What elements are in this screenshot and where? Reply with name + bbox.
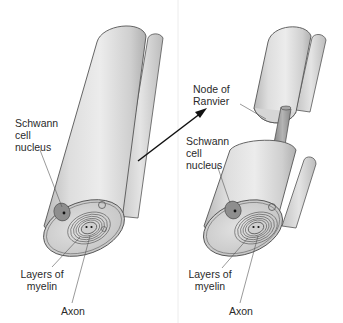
label-node-of-ranvier: Node of Ranvier	[193, 83, 230, 107]
label-schwann-cell-nucleus-left: Schwann cell nucleus	[15, 117, 58, 153]
myelination-diagram: Schwann cell nucleus Layers of myelin Ax…	[0, 0, 343, 323]
label-axon-right: Axon	[229, 305, 253, 317]
label-axon-left: Axon	[61, 305, 85, 317]
label-layers-of-myelin-left: Layers of myelin	[12, 268, 72, 292]
label-layers-of-myelin-right: Layers of myelin	[180, 268, 240, 292]
label-schwann-cell-nucleus-right: Schwann cell nucleus	[186, 135, 229, 171]
left-panel-myelinated-axon	[36, 26, 163, 303]
